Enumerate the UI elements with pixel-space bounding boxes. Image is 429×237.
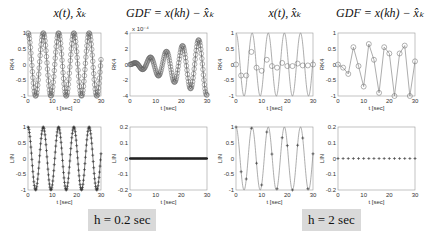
- svg-text:t [sec]: t [sec]: [56, 105, 72, 111]
- svg-text:0.5: 0.5: [18, 46, 27, 52]
- svg-text:0: 0: [336, 192, 340, 198]
- svg-text:0.2: 0.2: [328, 124, 337, 130]
- svg-text:LIN: LIN: [217, 154, 223, 163]
- svg-text:10: 10: [152, 192, 159, 198]
- svg-text:RK4: RK4: [319, 58, 325, 70]
- axes-panel-1: 0102030-1-0.500.51t [sec]RK4: [9, 30, 105, 111]
- axes-panel-8: 0102030-0.2-0.100.10.2t [sec]LIN: [319, 124, 419, 205]
- svg-text:t [sec]: t [sec]: [266, 105, 282, 111]
- svg-text:20: 20: [178, 192, 185, 198]
- svg-text:0.5: 0.5: [328, 46, 337, 52]
- axes-panel-6: 0102030-1-0.500.51t [sec]RK4: [319, 30, 419, 111]
- svg-text:30: 30: [412, 192, 419, 198]
- svg-text:LIN: LIN: [111, 154, 117, 163]
- svg-text:10: 10: [258, 98, 265, 104]
- svg-text:0: 0: [23, 156, 27, 162]
- svg-text:LIN: LIN: [9, 154, 15, 163]
- svg-text:30: 30: [310, 192, 317, 198]
- svg-text:10: 10: [49, 98, 56, 104]
- svg-text:0.5: 0.5: [18, 140, 27, 146]
- svg-text:20: 20: [73, 192, 80, 198]
- svg-text:0: 0: [333, 62, 337, 68]
- svg-text:t [sec]: t [sec]: [160, 199, 176, 205]
- svg-text:t [sec]: t [sec]: [56, 199, 72, 205]
- svg-text:30: 30: [310, 98, 317, 104]
- svg-text:LIN: LIN: [319, 154, 325, 163]
- svg-text:0: 0: [231, 62, 235, 68]
- svg-text:0: 0: [333, 156, 337, 162]
- svg-text:RK4: RK4: [217, 58, 223, 70]
- svg-text:20: 20: [386, 98, 393, 104]
- svg-text:4: 4: [125, 30, 129, 36]
- svg-text:-1: -1: [21, 187, 27, 193]
- svg-text:2: 2: [125, 46, 129, 52]
- svg-text:0: 0: [336, 98, 340, 104]
- svg-text:-0.5: -0.5: [224, 171, 235, 177]
- svg-text:20: 20: [386, 192, 393, 198]
- svg-text:1: 1: [231, 124, 235, 130]
- svg-text:30: 30: [204, 192, 211, 198]
- svg-text:-0.1: -0.1: [118, 171, 129, 177]
- svg-text:1: 1: [231, 30, 235, 36]
- svg-text:30: 30: [98, 98, 105, 104]
- axes-panel-3: 0102030-1-0.500.51t [sec]LIN: [9, 124, 105, 205]
- svg-text:0: 0: [125, 156, 129, 162]
- svg-text:0.5: 0.5: [226, 140, 235, 146]
- svg-text:0: 0: [234, 98, 238, 104]
- svg-text:0: 0: [234, 192, 238, 198]
- svg-text:20: 20: [178, 98, 185, 104]
- svg-text:-1: -1: [229, 93, 235, 99]
- svg-text:0: 0: [26, 98, 30, 104]
- svg-text:1: 1: [23, 124, 27, 130]
- svg-text:RK4: RK4: [111, 58, 117, 70]
- axes-panel-7: 0102030-1-0.500.51t [sec]LIN: [217, 124, 317, 205]
- svg-text:0.2: 0.2: [120, 124, 129, 130]
- svg-text:-4: -4: [123, 93, 129, 99]
- svg-text:0: 0: [128, 192, 132, 198]
- svg-text:-0.1: -0.1: [326, 171, 337, 177]
- svg-text:20: 20: [284, 98, 291, 104]
- svg-text:10: 10: [360, 192, 367, 198]
- axes-panel-5: 0102030-1-0.500.51t [sec]RK4: [217, 30, 317, 111]
- svg-text:0.1: 0.1: [328, 140, 337, 146]
- svg-text:-1: -1: [21, 93, 27, 99]
- step-label-right: h = 2 sec: [302, 209, 361, 231]
- svg-text:x 10⁻⁴: x 10⁻⁴: [132, 26, 149, 32]
- svg-text:30: 30: [412, 98, 419, 104]
- svg-text:-2: -2: [123, 77, 129, 83]
- svg-text:30: 30: [98, 192, 105, 198]
- axes-panel-2: 0102030-4-2024t [sec]RK4x 10⁻⁴: [111, 26, 211, 111]
- svg-text:0: 0: [26, 192, 30, 198]
- svg-text:t [sec]: t [sec]: [368, 199, 384, 205]
- step-label-left: h = 0.2 sec: [88, 209, 156, 231]
- svg-text:-1: -1: [229, 187, 235, 193]
- svg-text:-0.5: -0.5: [16, 171, 27, 177]
- svg-text:-0.5: -0.5: [16, 77, 27, 83]
- svg-text:0.5: 0.5: [226, 46, 235, 52]
- svg-text:0: 0: [128, 98, 132, 104]
- svg-text:t [sec]: t [sec]: [266, 199, 282, 205]
- svg-text:1: 1: [333, 30, 337, 36]
- svg-text:-1: -1: [331, 93, 337, 99]
- svg-text:10: 10: [360, 98, 367, 104]
- svg-text:t [sec]: t [sec]: [160, 105, 176, 111]
- svg-text:10: 10: [49, 192, 56, 198]
- svg-text:RK4: RK4: [9, 58, 15, 70]
- svg-text:10: 10: [258, 192, 265, 198]
- svg-text:0: 0: [23, 62, 27, 68]
- svg-text:30: 30: [204, 98, 211, 104]
- axes-panel-4: 0102030-0.2-0.100.10.2t [sec]LIN: [111, 124, 211, 205]
- svg-text:t [sec]: t [sec]: [368, 105, 384, 111]
- svg-text:0.1: 0.1: [120, 140, 129, 146]
- svg-text:20: 20: [73, 98, 80, 104]
- svg-text:10: 10: [152, 98, 159, 104]
- svg-text:-0.2: -0.2: [326, 187, 337, 193]
- svg-text:0: 0: [231, 156, 235, 162]
- svg-text:-0.2: -0.2: [118, 187, 129, 193]
- svg-text:-0.5: -0.5: [326, 77, 337, 83]
- svg-text:20: 20: [284, 192, 291, 198]
- figure-plots: 0102030-1-0.500.51t [sec]RK40102030-4-20…: [0, 0, 429, 237]
- svg-text:-0.5: -0.5: [224, 77, 235, 83]
